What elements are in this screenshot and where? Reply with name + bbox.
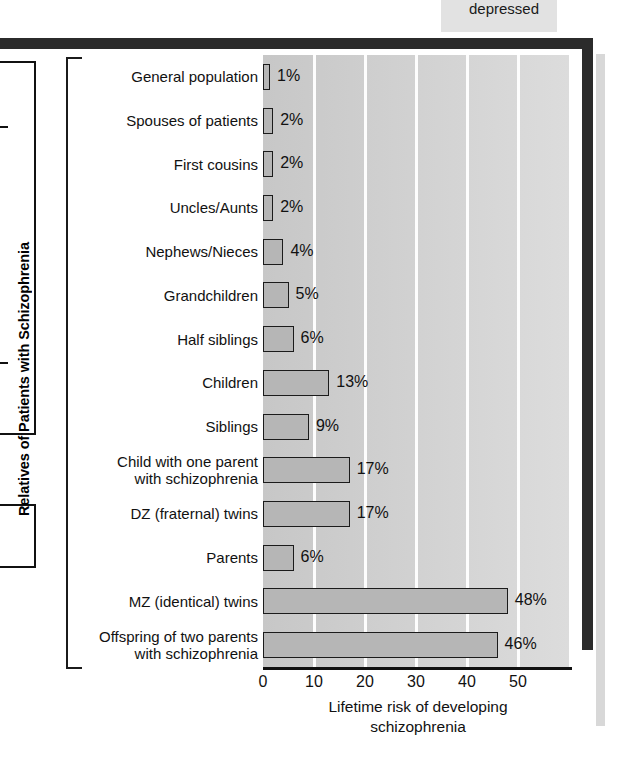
category-label: Offspring of two parents with schizophre… <box>28 628 258 662</box>
bar-row: Parents6% <box>0 536 582 580</box>
figure-frame-right-shadow <box>596 54 605 726</box>
x-tick-label-0: 0 <box>259 673 268 691</box>
bar-row: Nephews/Nieces4% <box>0 230 582 274</box>
bar-value-label: 48% <box>515 591 547 609</box>
neighbor-figure-caption: depressed <box>469 0 619 17</box>
bar-value-label: 6% <box>301 548 324 566</box>
bar-value-label: 2% <box>280 111 303 129</box>
x-axis-title: Lifetime risk of developing schizophreni… <box>263 697 573 737</box>
bar <box>263 545 294 571</box>
category-label: Half siblings <box>28 331 258 348</box>
bar-value-label: 6% <box>301 329 324 347</box>
bar-row: MZ (identical) twins48% <box>0 580 582 624</box>
bar-row: Offspring of two parents with schizophre… <box>0 623 582 667</box>
bar-row: Child with one parent with schizophrenia… <box>0 448 582 492</box>
bar <box>263 501 350 527</box>
category-label: MZ (identical) twins <box>28 593 258 610</box>
bar-value-label: 13% <box>336 373 368 391</box>
bar <box>263 632 498 658</box>
figure-page: depressed Relatives of Patients with Sch… <box>0 0 627 770</box>
x-tick-label-10: 10 <box>305 673 323 691</box>
bar <box>263 64 270 90</box>
x-axis-ticks: 01020304050 <box>263 673 573 695</box>
category-label: Grandchildren <box>28 287 258 304</box>
bar-row: Uncles/Aunts2% <box>0 186 582 230</box>
bar <box>263 151 273 177</box>
bar-value-label: 1% <box>277 67 300 85</box>
bar <box>263 239 283 265</box>
x-tick-label-20: 20 <box>356 673 374 691</box>
bar-rows: General population1%Spouses of patients2… <box>0 55 582 667</box>
category-label: DZ (fraternal) twins <box>28 505 258 522</box>
bar-value-label: 9% <box>316 417 339 435</box>
figure-frame-top <box>0 38 593 49</box>
category-label: Child with one parent with schizophrenia <box>28 453 258 487</box>
category-label: Parents <box>28 549 258 566</box>
bar-row: First cousins2% <box>0 142 582 186</box>
bar-row: Half siblings6% <box>0 317 582 361</box>
category-label: Siblings <box>28 418 258 435</box>
schizophrenia-risk-bar-chart: Relatives of Patients with Schizophrenia… <box>0 49 582 749</box>
category-label: Children <box>28 374 258 391</box>
bar <box>263 588 508 614</box>
bar-value-label: 17% <box>357 460 389 478</box>
x-tick-label-50: 50 <box>509 673 527 691</box>
category-label: General population <box>28 68 258 85</box>
bar-row: Spouses of patients2% <box>0 99 582 143</box>
x-tick-label-30: 30 <box>407 673 425 691</box>
x-tick-label-40: 40 <box>458 673 476 691</box>
bar <box>263 414 309 440</box>
bar-value-label: 5% <box>296 285 319 303</box>
bar-row: General population1% <box>0 55 582 99</box>
bar-row: Children13% <box>0 361 582 405</box>
bar <box>263 457 350 483</box>
bar-value-label: 2% <box>280 198 303 216</box>
bar-value-label: 17% <box>357 504 389 522</box>
category-label: Uncles/Aunts <box>28 199 258 216</box>
bar <box>263 326 294 352</box>
bar-value-label: 46% <box>505 635 537 653</box>
bar-value-label: 2% <box>280 154 303 172</box>
bar <box>263 195 273 221</box>
bar-row: Grandchildren5% <box>0 274 582 318</box>
bar <box>263 282 289 308</box>
bar-row: Siblings9% <box>0 405 582 449</box>
category-label: First cousins <box>28 156 258 173</box>
bar <box>263 108 273 134</box>
bar-row: DZ (fraternal) twins17% <box>0 492 582 536</box>
category-label: Nephews/Nieces <box>28 243 258 260</box>
bar-value-label: 4% <box>290 242 313 260</box>
figure-frame-right <box>582 38 593 650</box>
bar <box>263 370 329 396</box>
x-axis-line <box>263 667 572 670</box>
category-label: Spouses of patients <box>28 112 258 129</box>
